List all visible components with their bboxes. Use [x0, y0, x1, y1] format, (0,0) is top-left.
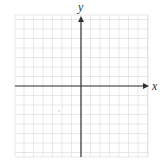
- coordinate-plane: x y: [0, 0, 164, 164]
- stray-mark: [58, 110, 60, 112]
- y-axis-arrow-icon: [78, 16, 84, 22]
- x-axis-label: x: [151, 79, 158, 93]
- y-axis-label: y: [77, 0, 84, 14]
